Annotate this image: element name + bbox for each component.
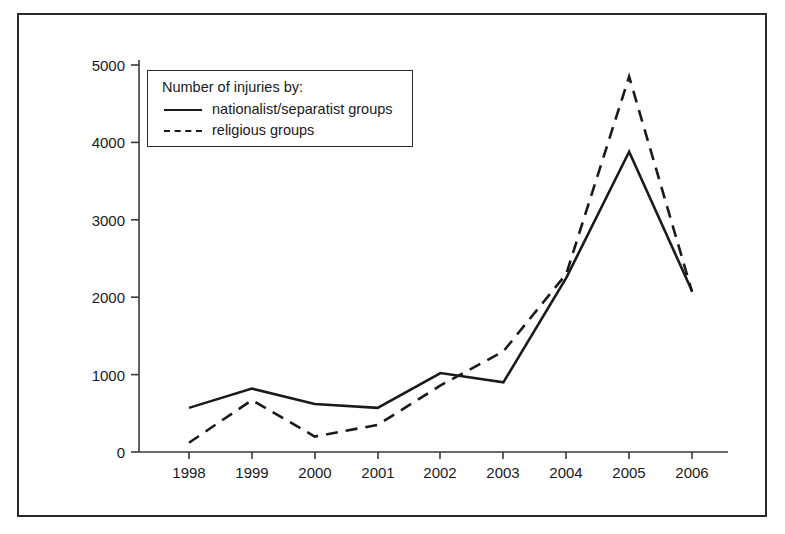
x-tick-label: 2000 (298, 464, 331, 481)
x-tick-label: 2006 (675, 464, 708, 481)
x-tick-label: 2002 (423, 464, 456, 481)
x-tick-label: 1998 (172, 464, 205, 481)
y-tick-label: 3000 (75, 211, 125, 228)
y-tick-label: 0 (75, 444, 125, 461)
legend-title: Number of injuries by: (162, 79, 303, 95)
x-tick-label: 2003 (486, 464, 519, 481)
chart-legend: Number of injuries by: nationalist/separ… (147, 70, 413, 147)
x-tick-label: 2001 (361, 464, 394, 481)
legend-entry-label: nationalist/separatist groups (212, 101, 393, 117)
legend-swatch-solid-icon (162, 102, 204, 116)
legend-entry-nationalist-separatist: nationalist/separatist groups (162, 100, 393, 120)
x-tick-label: 2005 (612, 464, 645, 481)
figure-root: 5000 4000 3000 2000 1000 0 1998 1999 200… (0, 0, 785, 534)
legend-entry-religious: religious groups (162, 121, 314, 141)
legend-entry-label: religious groups (212, 122, 314, 138)
y-tick-label: 1000 (75, 366, 125, 383)
y-tick-label: 4000 (75, 134, 125, 151)
y-tick-label: 2000 (75, 289, 125, 306)
x-tick-label: 2004 (549, 464, 582, 481)
y-tick-label: 5000 (75, 57, 125, 74)
x-tick-label: 1999 (235, 464, 268, 481)
legend-swatch-dashed-icon (162, 123, 204, 137)
